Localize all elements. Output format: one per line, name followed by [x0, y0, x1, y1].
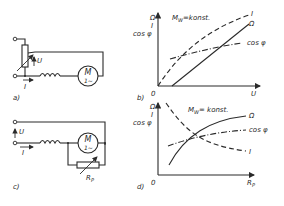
panel-label-b: b) [137, 94, 144, 102]
y-label-i-d: I [151, 111, 153, 119]
current-label-c: I [22, 149, 24, 157]
inductor-a [40, 74, 60, 77]
voltage-label-a: U [37, 57, 42, 65]
terminal-top-c [13, 120, 17, 124]
variable-arrow-icon [80, 157, 97, 174]
curve-label-i-d: I [249, 148, 251, 156]
y-label-omega-d: Ω [149, 103, 156, 111]
chart-d: Ω I cos φ 0 RP d) MW= konst. I Ω cos φ [133, 103, 268, 191]
curve-label-cos-b: cos φ [247, 39, 266, 47]
curve-label-omega-d: Ω [248, 112, 255, 120]
curve-omega-d [169, 116, 246, 165]
voltage-label-c: U [19, 128, 24, 136]
motor-name-a: M [85, 68, 92, 77]
resistor-label-c: RP [86, 174, 94, 183]
potentiometer-a [22, 45, 28, 67]
panel-label-c: c) [13, 183, 20, 191]
y-label-cos-b: cos φ [133, 30, 152, 38]
terminal-top-a [13, 37, 17, 41]
condition-d: MW= konst. [188, 106, 228, 115]
panel-label-d: d) [137, 183, 144, 191]
circuit-c: M 1~ RP U I c) [13, 120, 106, 191]
motor-type-a: 1~ [84, 77, 93, 84]
resistor-rp [77, 162, 99, 168]
origin-b: 0 [151, 90, 156, 98]
terminal-bottom-a [13, 74, 17, 78]
panel-label-a: a) [13, 94, 20, 102]
inductor-c [40, 141, 60, 144]
chart-b: Ω I cos φ 0 U b) MW=konst. I Ω cos φ [133, 10, 266, 102]
circuit-a: M 1~ U I a) [13, 37, 103, 102]
curve-label-i-b: I [251, 10, 253, 18]
curve-cos-b [170, 43, 242, 59]
x-label-b: U [251, 90, 256, 98]
curve-label-cos-d: cos φ [249, 126, 268, 134]
x-label-d: RP [247, 179, 255, 188]
curve-cos-d [168, 130, 246, 146]
motor-type-c: 1~ [84, 144, 93, 151]
motor-control-diagram: M 1~ U I a) Ω I cos φ 0 U b) MW=konst. I… [0, 0, 284, 206]
terminal-bottom-c [13, 141, 17, 145]
y-label-cos-d: cos φ [133, 119, 152, 127]
y-label-omega-b: Ω [149, 14, 156, 22]
motor-name-c: M [85, 135, 92, 144]
curve-label-omega-b: Ω [248, 20, 255, 28]
condition-b: MW=konst. [172, 14, 210, 23]
origin-d: 0 [151, 179, 156, 187]
current-label-a: I [24, 83, 26, 91]
y-label-i-b: I [151, 22, 153, 30]
